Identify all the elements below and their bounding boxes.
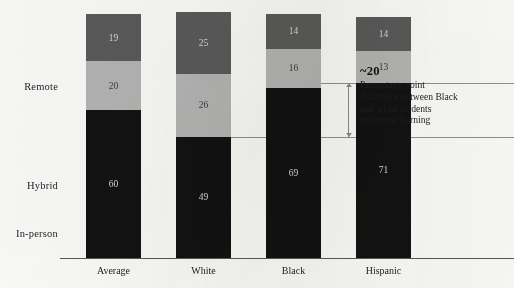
category-label-white: White — [176, 265, 231, 276]
segment-value-label: 71 — [379, 166, 389, 176]
annotation-text-line-2: difference between Black — [360, 91, 480, 103]
segment-value-label: 16 — [289, 64, 299, 74]
category-label-hispanic: Hispanic — [356, 265, 411, 276]
row-label-remote: Remote — [24, 81, 58, 92]
difference-arrow-head-up — [346, 83, 352, 87]
segment-white-hybrid: 26 — [176, 74, 231, 138]
segment-black-remote: 69 — [266, 88, 321, 258]
chart-page: In-person Hybrid Remote 1920602526491416… — [0, 0, 514, 288]
annotation-text-line-1: Percentage-point — [360, 79, 480, 91]
annotation-text: Percentage-point difference between Blac… — [360, 79, 480, 125]
segment-black-hybrid: 16 — [266, 49, 321, 88]
annotation-text-line-3: and white students — [360, 103, 480, 115]
row-label-in-person: In-person — [16, 228, 58, 239]
segment-value-label: 49 — [199, 193, 209, 203]
segment-hispanic-in-person: 14 — [356, 17, 411, 51]
difference-arrow-head-down — [346, 133, 352, 137]
segment-value-label: 25 — [199, 39, 209, 49]
segment-value-label: 69 — [289, 169, 299, 179]
segment-black-in-person: 14 — [266, 14, 321, 48]
segment-average-in-person: 19 — [86, 14, 141, 61]
difference-arrow — [348, 83, 349, 137]
category-label-black: Black — [266, 265, 321, 276]
bar-black: 141669 — [266, 14, 321, 258]
segment-value-label: 60 — [109, 180, 119, 190]
segment-average-remote: 60 — [86, 110, 141, 258]
annotation-value: ~20 — [360, 64, 480, 79]
bar-hispanic: 141371 — [356, 17, 411, 258]
category-label-average: Average — [86, 265, 141, 276]
annotation-block: ~20 Percentage-point difference between … — [360, 64, 480, 125]
segment-value-label: 14 — [379, 30, 389, 40]
bar-white: 252649 — [176, 12, 231, 258]
bar-average: 192060 — [86, 14, 141, 258]
segment-value-label: 19 — [109, 34, 119, 44]
annotation-text-line-4: in remote learning — [360, 114, 480, 126]
segment-value-label: 20 — [109, 82, 119, 92]
segment-value-label: 14 — [289, 27, 299, 37]
segment-value-label: 26 — [199, 101, 209, 111]
segment-white-in-person: 25 — [176, 12, 231, 74]
row-label-hybrid: Hybrid — [27, 180, 58, 191]
caption-bleed — [60, 279, 506, 288]
plot-area: 192060252649141669141371 ~20 Percentage-… — [66, 0, 514, 288]
segment-average-hybrid: 20 — [86, 61, 141, 110]
series-row-labels: In-person Hybrid Remote — [0, 0, 66, 288]
segment-white-remote: 49 — [176, 137, 231, 258]
